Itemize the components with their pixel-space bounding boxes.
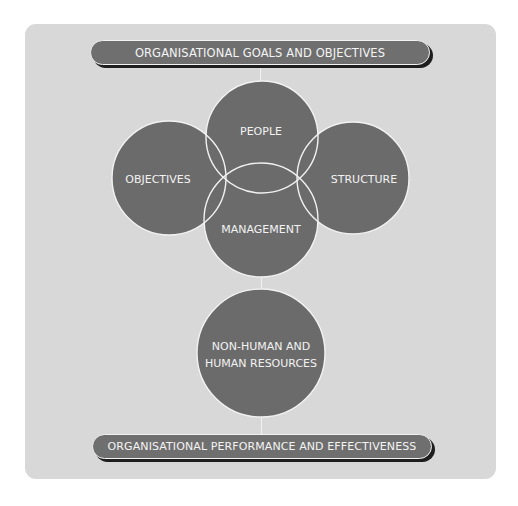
label-people: PEOPLE	[240, 124, 282, 139]
label-objectives: OBJECTIVES	[125, 172, 191, 187]
label-resources-line1: NON-HUMAN AND	[212, 339, 310, 354]
label-structure: STRUCTURE	[331, 172, 397, 187]
performance-banner: ORGANISATIONAL PERFORMANCE AND EFFECTIVE…	[92, 434, 432, 459]
goals-banner: ORGANISATIONAL GOALS AND OBJECTIVES	[90, 40, 430, 65]
venn-diagram	[0, 0, 518, 506]
performance-banner-label: ORGANISATIONAL PERFORMANCE AND EFFECTIVE…	[108, 440, 417, 453]
goals-banner-label: ORGANISATIONAL GOALS AND OBJECTIVES	[135, 46, 385, 60]
label-management: MANAGEMENT	[221, 222, 300, 237]
label-resources-line2: HUMAN RESOURCES	[205, 356, 317, 371]
